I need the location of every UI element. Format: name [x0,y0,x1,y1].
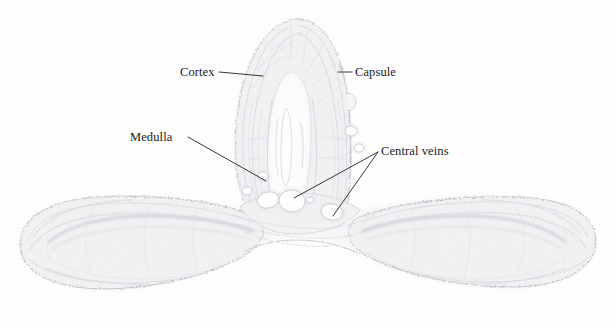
central-vein-7 [352,142,366,154]
left-lobe [20,196,264,289]
label-capsule: Capsule [355,66,396,79]
central-vein-6 [343,124,359,138]
capsule-bleb [346,93,356,110]
label-cortex: Cortex [180,66,215,79]
histology-figure: Cortex Capsule Medulla Central veins [0,0,615,329]
central-vein-8 [304,195,316,205]
specimen-illustration [0,0,615,329]
right-lobe [349,196,597,287]
central-vein-4 [240,185,254,197]
tissue-section [20,19,596,289]
label-medulla: Medulla [130,131,172,144]
label-central-veins: Central veins [381,145,449,158]
